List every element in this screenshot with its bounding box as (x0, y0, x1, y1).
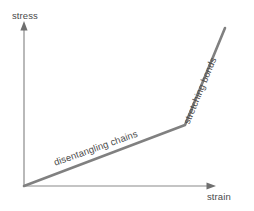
x-axis-label: strain (207, 191, 231, 202)
stress-strain-figure: stress strain disentangling chains stret… (0, 0, 254, 211)
x-axis-arrowhead-icon (207, 182, 217, 189)
plot-area (0, 0, 254, 211)
y-axis-label: stress (12, 10, 38, 21)
y-axis-arrowhead-icon (20, 21, 27, 31)
